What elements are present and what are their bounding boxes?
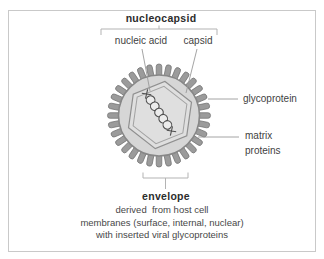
nucleocapsid-bracket: [101, 26, 217, 36]
nucleic-acid-label: nucleic acid: [115, 35, 167, 46]
matrix-proteins-label: matrix proteins: [245, 128, 281, 158]
glycoprotein-label: glycoprotein: [243, 93, 297, 104]
envelope-label: envelope: [142, 191, 190, 202]
capsid-label: capsid: [184, 35, 213, 46]
envelope-caption-line-1: derived from host cell: [10, 204, 314, 217]
envelope-caption-line-3: with inserted viral glycoproteins: [10, 229, 314, 242]
nucleocapsid-label: nucleocapsid: [126, 13, 197, 24]
virus-structure-diagram: nucleocapsid nucleic acid capsid glycopr…: [0, 0, 324, 259]
envelope-bracket: [143, 173, 188, 190]
envelope-caption-line-2: membranes (surface, internal, nuclear): [10, 217, 314, 230]
